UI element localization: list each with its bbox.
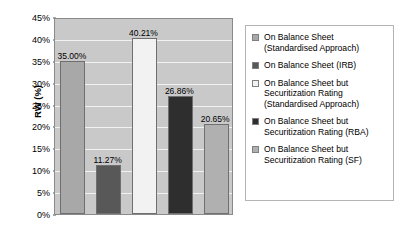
y-axis-tick-label: 45%	[12, 13, 50, 23]
bar-data-label: 26.86%	[165, 86, 194, 96]
y-axis-tick-label: 15%	[12, 144, 50, 154]
legend-item[interactable]: On Balance Sheet but Securitization Rati…	[252, 144, 388, 165]
y-axis-tick-label: 10%	[12, 166, 50, 176]
legend: On Balance Sheet (Standardised Approach)…	[245, 25, 394, 201]
legend-item-label: On Balance Sheet but Securitization Rati…	[264, 144, 362, 165]
bar	[168, 96, 193, 214]
legend-item[interactable]: On Balance Sheet but Securitization Rati…	[252, 116, 388, 137]
legend-item[interactable]: On Balance Sheet but Securitization Rati…	[252, 78, 388, 110]
y-axis-tick-labels: 45%40%35%30%25%20%15%10%5%0%	[12, 18, 50, 215]
y-axis-tick-label: 35%	[12, 57, 50, 67]
y-axis-tick-label: 0%	[12, 210, 50, 220]
legend-item[interactable]: On Balance Sheet (IRB)	[252, 60, 388, 71]
legend-item-label: On Balance Sheet but Securitization Rati…	[264, 116, 369, 137]
legend-swatch-icon	[252, 118, 259, 125]
y-axis-tick-label: 25%	[12, 101, 50, 111]
legend-item-label: On Balance Sheet but Securitization Rati…	[264, 78, 359, 110]
legend-swatch-icon	[252, 146, 259, 153]
bar	[132, 38, 157, 214]
bar	[204, 124, 229, 214]
bar-data-label: 35.00%	[57, 51, 86, 61]
bar-data-label: 20.65%	[201, 114, 230, 124]
bar-chart: RW (%) 45%40%35%30%25%20%15%10%5%0% 35.0…	[0, 0, 401, 243]
y-axis-tick-label: 20%	[12, 122, 50, 132]
legend-swatch-icon	[252, 34, 259, 41]
bar-data-label: 40.21%	[129, 28, 158, 38]
legend-item-label: On Balance Sheet (Standardised Approach)	[264, 32, 359, 53]
y-axis-tick-label: 5%	[12, 188, 50, 198]
bar-data-label: 11.27%	[94, 155, 122, 165]
y-axis-tick-label: 30%	[12, 79, 50, 89]
bar	[96, 165, 121, 214]
legend-item[interactable]: On Balance Sheet (Standardised Approach)	[252, 32, 388, 53]
bar	[60, 61, 85, 214]
legend-item-label: On Balance Sheet (IRB)	[264, 60, 356, 71]
legend-swatch-icon	[252, 62, 259, 69]
y-axis-tick-label: 40%	[12, 35, 50, 45]
legend-swatch-icon	[252, 80, 259, 87]
